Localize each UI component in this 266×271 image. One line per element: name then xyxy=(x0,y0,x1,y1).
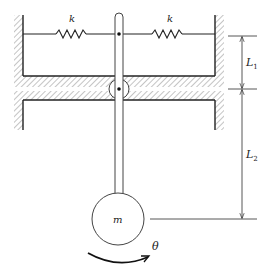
mass-label: m xyxy=(113,214,122,225)
pivot-point xyxy=(117,87,121,91)
right-wall xyxy=(215,15,224,130)
angle-theta-arrow xyxy=(88,253,149,263)
left-wall xyxy=(14,15,23,130)
dimension-L2: L2 xyxy=(242,90,258,218)
spring-right-label: k xyxy=(167,13,173,24)
angle-label: θ xyxy=(152,240,159,253)
pendulum-rod xyxy=(115,13,123,195)
spring-left xyxy=(23,30,119,38)
svg-text:L2: L2 xyxy=(245,148,258,163)
spring-left-label: k xyxy=(69,13,75,24)
spring-attach-point xyxy=(117,32,121,36)
dimension-L1: L1 xyxy=(242,37,264,88)
spring-right xyxy=(119,30,215,38)
pendulum-spring-diagram: m k k L1 L2 θ xyxy=(0,0,266,271)
